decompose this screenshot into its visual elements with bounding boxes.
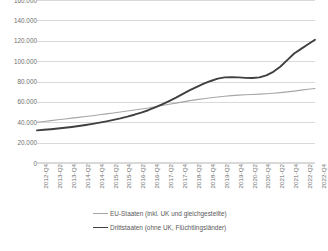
x-tick-label: 2022-Q2 [305, 164, 314, 204]
x-tick-label: 2016-Q4 [152, 164, 161, 204]
x-tick-label: 2019-Q2 [222, 164, 231, 204]
x-tick-label: 2021-Q2 [277, 164, 286, 204]
legend-item-eu-staaten[interactable]: EU-Staaten (inkl. UK und gleichgestellte… [93, 208, 227, 219]
y-tick-label: 20.000 [1, 139, 37, 146]
x-tick-label: 2020-Q2 [250, 164, 259, 204]
x-tick-label: 2022-Q4 [319, 164, 328, 204]
legend-label-drittstaaten: Drittstaaten (ohne UK, Flüchtlingsländer… [110, 224, 226, 232]
y-tick-label: 0 [1, 160, 37, 167]
y-tick-label: 140.000 [1, 17, 37, 24]
x-tick-label: 2015-Q4 [124, 164, 133, 204]
x-tick-label: 2017-Q4 [180, 164, 189, 204]
legend-item-drittstaaten[interactable]: Drittstaaten (ohne UK, Flüchtlingsländer… [93, 222, 226, 233]
x-tick-label: 2017-Q2 [166, 164, 175, 204]
y-tick-label: 160.000 [1, 0, 37, 4]
series-line-eu-staaten [37, 88, 315, 122]
legend-swatch-drittstaaten [93, 227, 108, 228]
x-tick-label: 2021-Q4 [291, 164, 300, 204]
plot-area [37, 0, 315, 163]
x-tick-label: 2014-Q4 [97, 164, 106, 204]
y-axis: 020.00040.00060.00080.000100.000120.0001… [0, 0, 37, 163]
legend-swatch-eu-staaten [93, 213, 108, 214]
x-axis: 2012-Q42013-Q22013-Q42014-Q22014-Q42015-… [37, 164, 315, 206]
x-tick-label: 2012-Q4 [41, 164, 50, 204]
x-tick-label: 2016-Q2 [138, 164, 147, 204]
y-tick-label: 120.000 [1, 37, 37, 44]
y-tick-label: 40.000 [1, 119, 37, 126]
x-tick-label: 2020-Q4 [263, 164, 272, 204]
x-tick-label: 2013-Q4 [69, 164, 78, 204]
x-tick-label: 2018-Q2 [194, 164, 203, 204]
y-tick-label: 80.000 [1, 78, 37, 85]
y-tick-label: 60.000 [1, 98, 37, 105]
x-tick-label: 2019-Q4 [236, 164, 245, 204]
x-tick-label: 2013-Q2 [55, 164, 64, 204]
legend-label-eu-staaten: EU-Staaten (inkl. UK und gleichgestellte… [110, 210, 227, 218]
series-line-drittstaaten [37, 40, 315, 131]
series-paths [37, 0, 315, 163]
y-tick-label: 100.000 [1, 58, 37, 65]
chart-legend: EU-Staaten (inkl. UK und gleichgestellte… [0, 206, 322, 251]
x-tick-label: 2018-Q4 [208, 164, 217, 204]
x-tick-label: 2015-Q2 [111, 164, 120, 204]
x-tick-label: 2014-Q2 [83, 164, 92, 204]
